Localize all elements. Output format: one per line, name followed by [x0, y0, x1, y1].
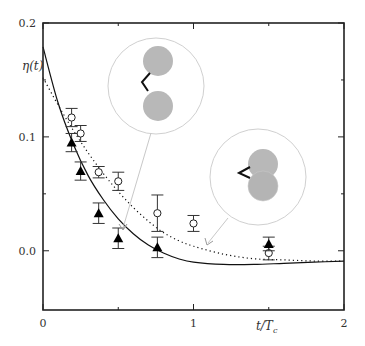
- x-axis-label: t/Tc: [256, 319, 278, 335]
- y-axis-label: η(t): [22, 59, 44, 73]
- y-tick-label: 0.2: [19, 17, 37, 30]
- x-tick-label: 0: [40, 317, 47, 330]
- filled-triangle-point: [93, 203, 105, 224]
- inset-overlapping-spheres: [205, 129, 306, 245]
- filled-triangle-point: [112, 228, 124, 249]
- open-circle-point: [188, 215, 200, 231]
- y-tick-label: 0.1: [19, 131, 37, 144]
- open-circle-point: [151, 195, 163, 231]
- open-circle-point: [93, 167, 105, 178]
- filled-triangle-point: [75, 162, 87, 180]
- chart: 0120.00.10.2 η(t) t/Tc: [0, 0, 365, 346]
- inset-separated-spheres: [108, 38, 204, 230]
- open-circle-point: [112, 172, 124, 190]
- y-tick-label: 0.0: [19, 245, 37, 258]
- x-tick-label: 2: [341, 317, 348, 330]
- insets: [108, 38, 306, 245]
- open-circle-point: [66, 108, 78, 126]
- filled-triangle-point: [263, 237, 275, 251]
- x-tick-label: 1: [190, 317, 197, 330]
